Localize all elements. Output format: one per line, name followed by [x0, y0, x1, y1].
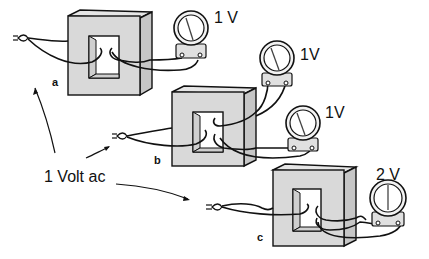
arrow-to-c: [116, 184, 188, 199]
voltmeter-b-top-icon: [260, 41, 294, 86]
setup-label-b: b: [154, 154, 161, 166]
voltmeter-c-icon: [370, 180, 406, 226]
setup-label-c: c: [257, 231, 263, 243]
plug-b-icon: [112, 133, 127, 139]
plug-a-icon: [13, 35, 28, 41]
plug-c-icon: [206, 204, 222, 210]
meter-reading-b-top: 1V: [300, 46, 320, 63]
meter-reading-b-bottom: 1V: [325, 104, 345, 121]
transformer-diagram: 1 V a: [0, 0, 429, 259]
primary-wire-a: [28, 38, 68, 41]
meter-reading-a: 1 V: [214, 9, 238, 26]
setup-a: 1 V a: [13, 9, 238, 95]
arrow-to-a: [35, 88, 55, 153]
setup-label-a: a: [52, 76, 59, 88]
primary-wire-b: [127, 128, 172, 136]
transformer-core-c: [273, 164, 356, 246]
source-voltage-label: 1 Volt ac: [44, 168, 105, 185]
source-annotation: 1 Volt ac: [33, 88, 190, 201]
setup-c: 2 V c: [206, 164, 406, 246]
meter-reading-c: 2 V: [376, 166, 400, 183]
voltmeter-a-icon: [174, 11, 208, 58]
voltmeter-b-bottom-icon: [286, 106, 320, 151]
